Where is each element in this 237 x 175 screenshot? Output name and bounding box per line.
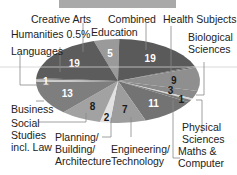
label-maths-2: Computer xyxy=(178,157,225,169)
label-planning-2: Building/ xyxy=(55,143,95,155)
label-engineering: Engineering/ xyxy=(111,143,170,155)
value-label: 9 xyxy=(171,75,177,86)
label-biological: Biological xyxy=(188,31,233,43)
value-label: 19 xyxy=(145,53,157,64)
label-planning: Planning/ xyxy=(55,131,99,143)
label-languages: Languages xyxy=(11,45,63,57)
value-label: 1 xyxy=(179,94,185,105)
label-business: Business xyxy=(11,103,54,115)
value-label: 8 xyxy=(90,101,96,112)
value-label: 2 xyxy=(104,112,110,123)
value-label: 11 xyxy=(148,98,159,109)
value-label: 3 xyxy=(168,85,174,96)
value-label: 7 xyxy=(122,104,128,115)
label-education: Education xyxy=(91,26,138,38)
label-health: Health Subjects xyxy=(163,13,237,25)
value-label: 5 xyxy=(107,48,113,59)
label-physical-2: Sciences xyxy=(182,133,225,145)
label-physical: Physical xyxy=(182,121,221,133)
value-label: 19 xyxy=(69,58,81,69)
label-biological-2: Sciences xyxy=(188,43,231,55)
value-label: 13 xyxy=(62,88,74,99)
label-humanities: Humanities 0.5% xyxy=(11,28,90,40)
label-creative-arts: Creative Arts xyxy=(31,13,91,25)
label-engineering-2: Technology xyxy=(111,155,165,167)
label-combined: Combined xyxy=(108,13,156,25)
label-social-2: Studies xyxy=(11,129,46,141)
label-planning-3: Architecture xyxy=(55,155,111,167)
label-social-3: incl. Law xyxy=(11,141,52,153)
label-maths: Maths & xyxy=(178,145,217,157)
pie-chart: 5199311172813119 Creative Arts Humanitie… xyxy=(0,0,237,175)
label-social: Social xyxy=(11,117,40,129)
